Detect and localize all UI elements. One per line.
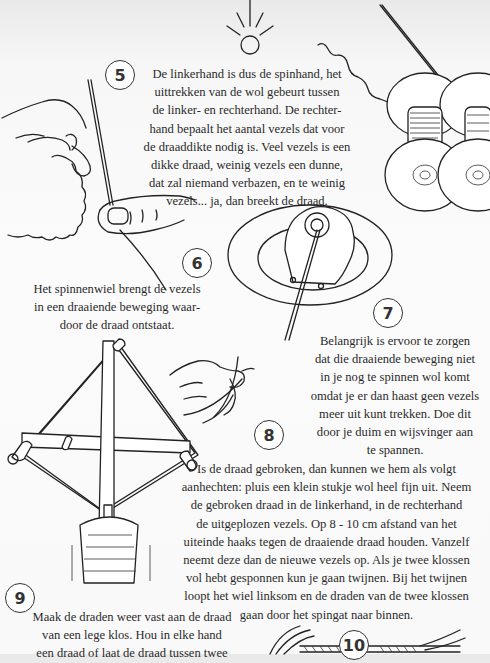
step-number-6: 6	[182, 248, 212, 278]
step-number-5: 5	[105, 60, 135, 90]
step-number-7: 7	[373, 298, 403, 328]
spinning-wheel-orifice-illustration	[225, 200, 395, 310]
step-7-text: Belangrijk is ervoor te zorgen dat die d…	[300, 332, 490, 459]
step-number-8: 8	[254, 420, 284, 450]
step-8-text: Is de draad gebroken, dan kunnen we hem …	[170, 460, 483, 624]
step-number-10: 10	[339, 630, 369, 660]
step-6-text: Het spinnenwiel brengt de vezels in een …	[12, 280, 222, 335]
sun-icon	[205, 0, 295, 65]
step-9-text: Maak de draden weer vast aan de draad va…	[8, 608, 256, 663]
step-5-text: De linkerhand is dus de spinhand, het ui…	[137, 65, 357, 211]
